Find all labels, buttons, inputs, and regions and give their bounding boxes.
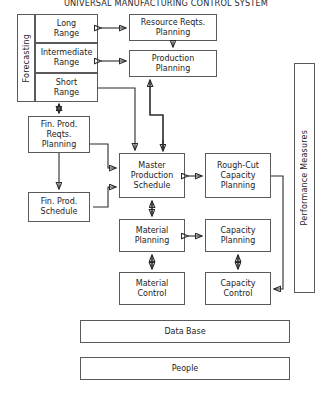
conn-finprodreqts-mps: [90, 144, 116, 168]
conn-mps-pp-line: [150, 80, 163, 150]
box-fin-prod-reqts-planning[interactable]: Fin. Prod.Reqts.Planning: [28, 116, 90, 153]
conn-mps-production-planning: [150, 80, 163, 150]
box-people-label: People: [172, 364, 199, 374]
box-capacity-planning-label: CapacityPlanning: [221, 226, 256, 246]
box-resource-reqts-planning[interactable]: Resource Reqts.Planning: [129, 14, 217, 41]
box-long-range[interactable]: LongRange: [35, 14, 98, 43]
box-performance-measures-label: Performance Measures: [300, 130, 309, 225]
box-data-base[interactable]: Data Base: [80, 320, 290, 343]
box-capacity-control-label: CapacityControl: [221, 279, 256, 299]
box-production-planning[interactable]: ProductionPlanning: [129, 50, 217, 77]
conn-roughcut-capacitycontrol: [271, 176, 283, 289]
box-people[interactable]: People: [80, 357, 290, 380]
box-intermediate-range-label: IntermediateRange: [41, 48, 93, 68]
box-master-production-schedule-label: MasterProductionSchedule: [131, 161, 174, 191]
box-material-planning-label: MaterialPlanning: [135, 226, 169, 246]
forecasting-group-label: Forecasting: [17, 14, 35, 102]
box-intermediate-range[interactable]: IntermediateRange: [35, 43, 98, 73]
forecasting-label-text: Forecasting: [22, 34, 31, 82]
conn-finprodsched-mps: [93, 187, 116, 207]
box-data-base-label: Data Base: [164, 327, 205, 337]
box-long-range-label: LongRange: [54, 19, 79, 39]
box-performance-measures[interactable]: Performance Measures: [294, 63, 315, 293]
box-fin-prod-schedule-label: Fin. Prod.Schedule: [41, 197, 78, 217]
box-short-range-label: ShortRange: [54, 78, 79, 98]
box-master-production-schedule[interactable]: MasterProductionSchedule: [119, 153, 185, 198]
box-fin-prod-schedule[interactable]: Fin. Prod.Schedule: [28, 192, 90, 222]
box-material-planning[interactable]: MaterialPlanning: [119, 219, 185, 252]
diagram-title: UNIVERSAL MANUFACTURING CONTROL SYSTEM: [0, 0, 332, 8]
box-fin-prod-reqts-planning-label: Fin. Prod.Reqts.Planning: [41, 120, 78, 150]
box-short-range[interactable]: ShortRange: [35, 73, 98, 102]
box-production-planning-label: ProductionPlanning: [152, 54, 195, 74]
box-capacity-planning[interactable]: CapacityPlanning: [205, 219, 271, 252]
conn-short-range-mps: [98, 88, 135, 150]
box-rough-cut-capacity-planning[interactable]: Rough-CutCapacityPlanning: [205, 153, 271, 198]
box-capacity-control[interactable]: CapacityControl: [205, 272, 271, 305]
box-material-control[interactable]: MaterialControl: [119, 272, 185, 305]
manufacturing-control-diagram: UNIVERSAL MANUFACTURING CONTROL SYSTEM F…: [0, 0, 332, 397]
box-resource-reqts-planning-label: Resource Reqts.Planning: [141, 18, 205, 38]
box-rough-cut-capacity-planning-label: Rough-CutCapacityPlanning: [217, 161, 259, 191]
box-material-control-label: MaterialControl: [136, 279, 169, 299]
